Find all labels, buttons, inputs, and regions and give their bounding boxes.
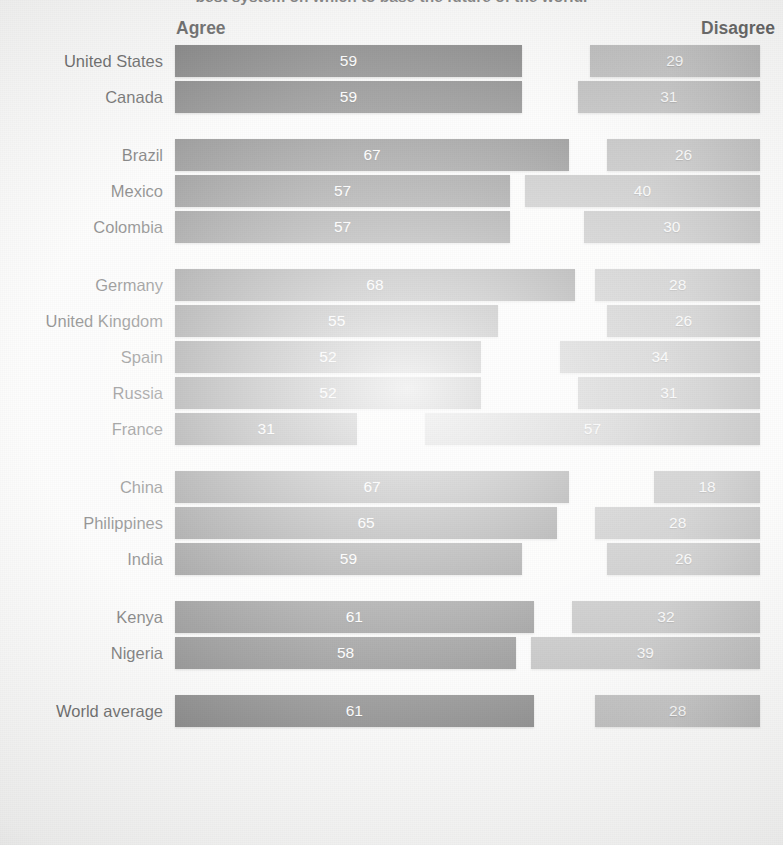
table-row: Russia5231 — [0, 377, 783, 409]
bar-disagree: 34 — [560, 341, 760, 373]
bar-value-disagree: 29 — [590, 45, 761, 77]
table-row: Kenya6132 — [0, 601, 783, 633]
bar-value-agree: 68 — [175, 269, 575, 301]
table-row: United Kingdom5526 — [0, 305, 783, 337]
bar-agree: 57 — [175, 211, 510, 243]
table-row: Brazil6726 — [0, 139, 783, 171]
bar-value-agree: 57 — [175, 175, 510, 207]
bar-disagree: 30 — [584, 211, 760, 243]
row-plot: 5231 — [175, 377, 760, 409]
bar-disagree: 31 — [578, 377, 760, 409]
figure-title: best system on which to base the future … — [0, 0, 783, 7]
bar-agree: 57 — [175, 175, 510, 207]
column-header-disagree: Disagree — [701, 17, 775, 39]
row-plot: 6132 — [175, 601, 760, 633]
bar-agree: 52 — [175, 341, 481, 373]
row-label-russia: Russia — [0, 377, 163, 409]
row-label-united-kingdom: United Kingdom — [0, 305, 163, 337]
table-row: China6718 — [0, 471, 783, 503]
row-plot: 6528 — [175, 507, 760, 539]
table-row: Colombia5730 — [0, 211, 783, 243]
row-label-india: India — [0, 543, 163, 575]
row-label-colombia: Colombia — [0, 211, 163, 243]
table-row: Spain5234 — [0, 341, 783, 373]
row-plot: 3157 — [175, 413, 760, 445]
row-plot: 5839 — [175, 637, 760, 669]
row-label-germany: Germany — [0, 269, 163, 301]
bar-value-agree: 61 — [175, 695, 534, 727]
row-plot: 6726 — [175, 139, 760, 171]
bar-value-disagree: 57 — [425, 413, 760, 445]
table-row: Canada5931 — [0, 81, 783, 113]
row-label-mexico: Mexico — [0, 175, 163, 207]
bar-value-agree: 59 — [175, 45, 522, 77]
row-label-philippines: Philippines — [0, 507, 163, 539]
bar-value-disagree: 34 — [560, 341, 760, 373]
row-plot: 6128 — [175, 695, 760, 727]
table-row: France3157 — [0, 413, 783, 445]
bar-value-agree: 65 — [175, 507, 557, 539]
bar-disagree: 57 — [425, 413, 760, 445]
bar-disagree: 18 — [654, 471, 760, 503]
bar-value-agree: 58 — [175, 637, 516, 669]
bar-disagree: 26 — [607, 543, 760, 575]
bar-agree: 52 — [175, 377, 481, 409]
table-row: Mexico5740 — [0, 175, 783, 207]
bar-agree: 59 — [175, 45, 522, 77]
bar-disagree: 28 — [595, 695, 760, 727]
row-plot: 5730 — [175, 211, 760, 243]
row-plot: 6828 — [175, 269, 760, 301]
bar-value-disagree: 30 — [584, 211, 760, 243]
row-plot: 5929 — [175, 45, 760, 77]
bar-disagree: 31 — [578, 81, 760, 113]
bar-agree: 67 — [175, 139, 569, 171]
bar-agree: 31 — [175, 413, 357, 445]
bar-value-agree: 59 — [175, 543, 522, 575]
figure-title-strip: best system on which to base the future … — [0, 0, 783, 7]
bar-value-agree: 57 — [175, 211, 510, 243]
row-plot: 6718 — [175, 471, 760, 503]
row-plot: 5926 — [175, 543, 760, 575]
table-row: Germany6828 — [0, 269, 783, 301]
bar-value-disagree: 26 — [607, 139, 760, 171]
bar-disagree: 26 — [607, 139, 760, 171]
row-label-canada: Canada — [0, 81, 163, 113]
bar-agree: 61 — [175, 601, 534, 633]
table-row: World average6128 — [0, 695, 783, 727]
row-label-france: France — [0, 413, 163, 445]
bar-agree: 68 — [175, 269, 575, 301]
bar-value-agree: 52 — [175, 341, 481, 373]
bar-value-agree: 31 — [175, 413, 357, 445]
table-row: United States5929 — [0, 45, 783, 77]
bar-value-disagree: 28 — [595, 507, 760, 539]
row-label-spain: Spain — [0, 341, 163, 373]
bar-value-disagree: 28 — [595, 695, 760, 727]
row-label-world-average: World average — [0, 695, 163, 727]
table-row: Nigeria5839 — [0, 637, 783, 669]
bar-disagree: 39 — [531, 637, 760, 669]
chart-figure: best system on which to base the future … — [0, 0, 783, 845]
bar-value-agree: 55 — [175, 305, 498, 337]
bar-disagree: 40 — [525, 175, 760, 207]
row-plot: 5740 — [175, 175, 760, 207]
row-label-nigeria: Nigeria — [0, 637, 163, 669]
bar-value-disagree: 28 — [595, 269, 760, 301]
row-label-brazil: Brazil — [0, 139, 163, 171]
bar-agree: 59 — [175, 543, 522, 575]
bar-value-disagree: 18 — [654, 471, 760, 503]
bar-value-disagree: 39 — [531, 637, 760, 669]
row-plot: 5234 — [175, 341, 760, 373]
table-row: Philippines6528 — [0, 507, 783, 539]
bar-disagree: 28 — [595, 507, 760, 539]
bar-disagree: 32 — [572, 601, 760, 633]
bar-value-disagree: 31 — [578, 377, 760, 409]
bar-disagree: 26 — [607, 305, 760, 337]
bar-value-disagree: 26 — [607, 543, 760, 575]
row-plot: 5931 — [175, 81, 760, 113]
row-label-kenya: Kenya — [0, 601, 163, 633]
bar-value-agree: 67 — [175, 471, 569, 503]
bar-value-agree: 67 — [175, 139, 569, 171]
bar-agree: 67 — [175, 471, 569, 503]
bar-agree: 65 — [175, 507, 557, 539]
bar-disagree: 28 — [595, 269, 760, 301]
